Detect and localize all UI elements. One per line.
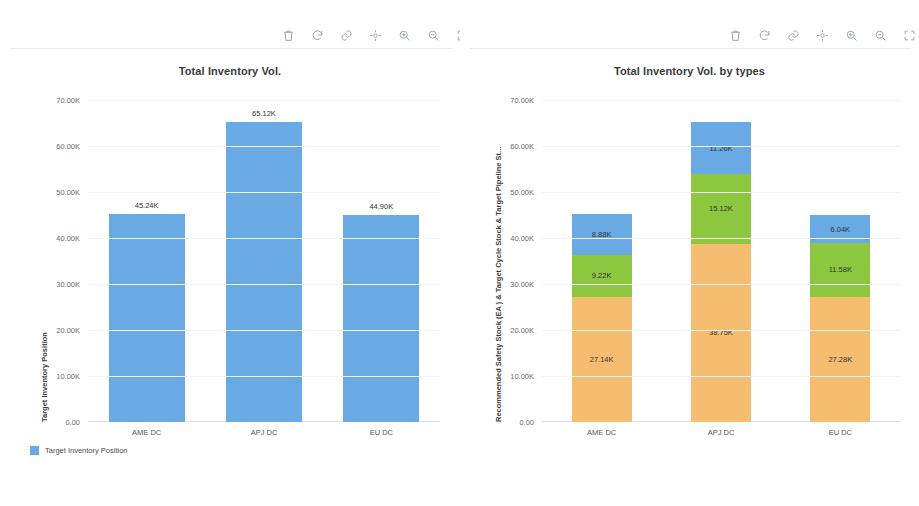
stacked-bar-group: 6.04K11.58K27.28K: [810, 100, 870, 422]
gridline: [88, 238, 440, 239]
stacked-bar-group: 11.26K15.12K38.75K: [691, 100, 751, 422]
y-axis-tick-label: 60.00K: [56, 142, 80, 151]
pan-icon[interactable]: [368, 28, 383, 43]
gridline: [88, 330, 440, 331]
y-axis-tick-label: 20.00K: [510, 326, 534, 335]
bar-segment-recommended-safety-stock[interactable]: 6.04K: [810, 215, 870, 243]
bar-value-label: 44.90K: [369, 202, 393, 211]
legend-left: Target Inventory Position: [30, 446, 128, 455]
panel-divider-left: [10, 48, 452, 49]
y-axis-tick-label: 50.00K: [510, 188, 534, 197]
bar-segment-value-label: 27.14K: [590, 355, 614, 364]
y-axis-tick-label: 50.00K: [56, 188, 80, 197]
zoom-in-icon[interactable]: [844, 28, 859, 43]
bar-segment-value-label: 11.58K: [829, 265, 852, 274]
zoom-out-icon[interactable]: [426, 28, 441, 43]
gridline: [542, 192, 900, 193]
gridline: [542, 100, 900, 101]
stacked-bar-group: 8.88K9.22K27.14K: [572, 100, 632, 422]
chart-toolbar-left[interactable]: [281, 24, 470, 46]
bar-segment-recommended-safety-stock[interactable]: 11.26K: [691, 122, 751, 174]
gridline: [88, 146, 440, 147]
bar-segment-target-cycle-stock[interactable]: 15.12K: [691, 174, 751, 244]
x-axis-label-eu-dc: EU DC: [343, 428, 419, 437]
bar-group: 44.90K: [343, 100, 419, 422]
y-axis-tick-label: 0.00: [519, 418, 534, 427]
bar-apj-dc[interactable]: [226, 122, 302, 422]
trash-icon[interactable]: [728, 28, 743, 43]
zoom-in-icon[interactable]: [397, 28, 412, 43]
zoom-out-icon[interactable]: [873, 28, 888, 43]
y-axis-tick-label: 0.00: [65, 418, 80, 427]
pan-icon[interactable]: [815, 28, 830, 43]
y-axis-tick-label: 40.00K: [510, 234, 534, 243]
bar-segment-target-pipeline-stock[interactable]: 27.14K: [572, 297, 632, 422]
chart-panel-total-inventory-vol: Total Inventory Vol. Target Inventory Po…: [0, 0, 460, 506]
y-axis-tick-label: 30.00K: [56, 280, 80, 289]
bar-segment-target-cycle-stock[interactable]: 11.58K: [810, 243, 870, 296]
fullscreen-icon[interactable]: [902, 28, 917, 43]
chart-panel-total-inventory-vol-by-types: Total Inventory Vol. by types Recommende…: [460, 0, 919, 506]
bar-segment-target-cycle-stock[interactable]: 9.22K: [572, 255, 632, 297]
gridline: [88, 284, 440, 285]
refresh-icon[interactable]: [310, 28, 325, 43]
gridline: [542, 238, 900, 239]
y-axis-tick-label: 10.00K: [510, 372, 534, 381]
bar-group: 45.24K: [109, 100, 185, 422]
x-axis-label-ame-dc: AME DC: [572, 428, 632, 437]
x-axis-labels-left: AME DCAPJ DCEU DC: [88, 428, 440, 437]
gridline: [542, 376, 900, 377]
dashboard-page: Total Inventory Vol. Target Inventory Po…: [0, 0, 919, 506]
refresh-icon[interactable]: [757, 28, 772, 43]
bar-value-label: 45.24K: [135, 201, 159, 210]
gridline: [542, 146, 900, 147]
x-axis-labels-right: AME DCAPJ DCEU DC: [542, 428, 900, 437]
bar-segment-value-label: 9.22K: [592, 271, 612, 280]
y-axis-tick-label: 10.00K: [56, 372, 80, 381]
plot-area-left: 45.24K65.12K44.90K 0.0010.00K20.00K30.00…: [88, 100, 440, 422]
x-axis-label-eu-dc: EU DC: [810, 428, 870, 437]
chart-title-right: Total Inventory Vol. by types: [460, 65, 919, 77]
y-axis-tick-label: 70.00K: [510, 96, 534, 105]
panel-divider-right: [470, 48, 911, 49]
bar-series-right: 8.88K9.22K27.14K11.26K15.12K38.75K6.04K1…: [542, 100, 900, 422]
gridline: [542, 284, 900, 285]
y-axis-tick-label: 20.00K: [56, 326, 80, 335]
bar-segment-target-pipeline-stock[interactable]: 38.75K: [691, 244, 751, 422]
chart-toolbar-right[interactable]: [728, 24, 917, 46]
legend-swatch: [30, 446, 39, 455]
y-axis-tick-label: 70.00K: [56, 96, 80, 105]
trash-icon[interactable]: [281, 28, 296, 43]
link-icon[interactable]: [786, 28, 801, 43]
bar-value-label: 65.12K: [252, 109, 276, 118]
x-axis-label-ame-dc: AME DC: [109, 428, 185, 437]
gridline: [88, 100, 440, 101]
bar-ame-dc[interactable]: [109, 214, 185, 422]
bar-eu-dc[interactable]: [343, 215, 419, 422]
legend-item-target-inventory-position[interactable]: Target Inventory Position: [30, 446, 128, 455]
bar-segment-target-pipeline-stock[interactable]: 27.28K: [810, 297, 870, 422]
y-axis-title-left: Target Inventory Position: [40, 332, 49, 422]
y-axis-tick-label: 40.00K: [56, 234, 80, 243]
gridline: [88, 192, 440, 193]
y-axis-tick-label: 60.00K: [510, 142, 534, 151]
bar-segment-value-label: 6.04K: [831, 225, 851, 234]
link-icon[interactable]: [339, 28, 354, 43]
legend-label: Target Inventory Position: [45, 446, 128, 455]
bar-segment-value-label: 15.12K: [709, 204, 733, 213]
gridline: [88, 376, 440, 377]
y-axis-tick-label: 30.00K: [510, 280, 534, 289]
bar-series-left: 45.24K65.12K44.90K: [88, 100, 440, 422]
plot-area-right: 8.88K9.22K27.14K11.26K15.12K38.75K6.04K1…: [542, 100, 900, 422]
x-axis-label-apj-dc: APJ DC: [226, 428, 302, 437]
chart-title-left: Total Inventory Vol.: [0, 65, 460, 77]
y-axis-title-right: Recommended Safety Stock (EA ) & Target …: [494, 147, 503, 422]
bar-group: 65.12K: [226, 100, 302, 422]
bar-segment-value-label: 27.28K: [828, 355, 852, 364]
x-axis-label-apj-dc: APJ DC: [691, 428, 751, 437]
bar-segment-recommended-safety-stock[interactable]: 8.88K: [572, 214, 632, 255]
gridline: [542, 330, 900, 331]
